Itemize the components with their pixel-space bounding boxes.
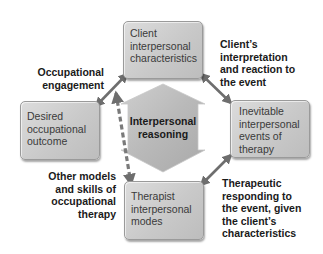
label-other-models: Other models and skills of occupational … bbox=[30, 170, 116, 220]
box-label: Inevitable interpersonal events of thera… bbox=[239, 105, 303, 155]
label-client-interpretation: Client’s interpretation and reaction to … bbox=[220, 38, 320, 88]
box-label: Desired occupational outcome bbox=[27, 110, 93, 148]
box-label: Client interpersonal characteristics bbox=[130, 27, 196, 65]
box-inevitable-interpersonal-events: Inevitable interpersonal events of thera… bbox=[230, 100, 310, 158]
center-label: Interpersonal reasoning bbox=[126, 115, 200, 141]
label-occupational-engagement: Occupational engagement bbox=[28, 66, 104, 91]
box-client-interpersonal-characteristics: Client interpersonal characteristics bbox=[123, 21, 203, 79]
label-therapeutic-responding: Therapeutic responding to the event, giv… bbox=[222, 177, 322, 240]
box-label: Therapist interpersonal modes bbox=[131, 190, 197, 228]
interpersonal-reasoning-diagram: Client interpersonal characteristics Des… bbox=[0, 0, 323, 254]
box-therapist-interpersonal-modes: Therapist interpersonal modes bbox=[124, 181, 204, 240]
box-desired-occupational-outcome: Desired occupational outcome bbox=[20, 101, 100, 160]
